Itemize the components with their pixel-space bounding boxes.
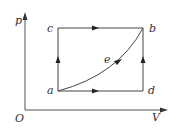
v-axis-label: V — [152, 111, 161, 124]
point-a-label: a — [47, 84, 54, 97]
v-axis-arrow-icon — [160, 108, 168, 113]
arrow-right-icon — [92, 89, 99, 94]
p-axis-label: p — [15, 14, 22, 27]
point-b-label: b — [149, 22, 156, 35]
arrow-right-icon — [92, 26, 99, 31]
arrow-up-icon — [56, 56, 61, 63]
point-d-label: d — [148, 84, 155, 97]
origin-label: O — [15, 112, 24, 125]
pv-diagram: p V O c b a d e — [0, 0, 176, 133]
p-axis-arrow-icon — [23, 12, 28, 20]
path-a-e-b — [58, 28, 143, 91]
arrow-up-icon — [141, 56, 146, 63]
point-c-label: c — [47, 22, 53, 35]
point-e-label: e — [104, 53, 111, 66]
